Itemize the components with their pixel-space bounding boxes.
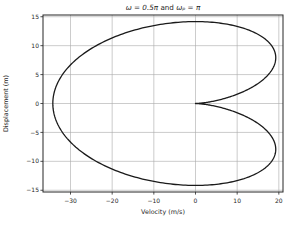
phase-plot-figure: −30−20−1001020151050−5−10−15 ω = 0.5π an… [0, 0, 290, 227]
y-tick-label--10: −10 [26, 157, 39, 164]
y-tick-label-10: 10 [31, 42, 39, 49]
grid [43, 15, 283, 192]
title-omega-term: ω = 0.5π [126, 3, 159, 12]
x-tick-label--10: −10 [147, 197, 160, 204]
y-tick-label--5: −5 [30, 129, 39, 136]
title-omega-p-term: ωₚ = π [176, 3, 201, 12]
x-tick-label-10: 10 [233, 197, 241, 204]
x-tick-label-0: 0 [194, 197, 198, 204]
x-tick-label-20: 20 [275, 197, 283, 204]
title-and: and [158, 3, 176, 12]
x-tick-label--20: −20 [106, 197, 119, 204]
y-tick-label-15: 15 [31, 13, 39, 20]
x-tick-label--30: −30 [64, 197, 77, 204]
y-tick-label-5: 5 [35, 71, 39, 78]
phase-plot-canvas: −30−20−1001020151050−5−10−15 ω = 0.5π an… [0, 0, 290, 227]
axis-ticks: −30−20−1001020151050−5−10−15 [26, 13, 283, 204]
x-axis-label: Velocity (m/s) [141, 208, 185, 216]
y-tick-label-0: 0 [35, 100, 39, 107]
chart-title: ω = 0.5π and ωₚ = π [126, 3, 201, 12]
y-axis-label: Displacement (m) [2, 75, 10, 132]
y-tick-label--15: −15 [26, 186, 39, 193]
